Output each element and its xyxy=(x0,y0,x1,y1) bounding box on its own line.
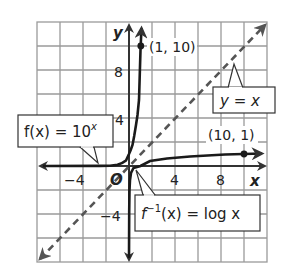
tick-x-8: 8 xyxy=(216,172,225,188)
tick-y-neg4: −4 xyxy=(100,208,121,224)
graph-figure: y x O −4 4 8 8 4 −4 (1, 10) (10, 1) y = … xyxy=(0,0,285,280)
point-label-1-10: (1, 10) xyxy=(149,39,196,55)
point-label-10-1: (10, 1) xyxy=(208,127,255,143)
callout-log-sup: −1 xyxy=(146,203,161,214)
tick-x-4: 4 xyxy=(170,172,179,188)
tick-y-8: 8 xyxy=(114,64,123,80)
callout-exp-text: f(x) = 10x xyxy=(24,121,97,141)
callout-log-rest: (x) = log x xyxy=(161,205,240,223)
callout-exp: f(x) = 10x xyxy=(18,115,113,163)
point-1-10 xyxy=(137,43,144,50)
tick-x-neg4: −4 xyxy=(64,172,85,188)
callout-exp-sup: x xyxy=(90,121,97,132)
x-axis-label: x xyxy=(249,172,261,190)
callout-identity-text: y = x xyxy=(219,92,260,110)
y-axis-label: y xyxy=(113,24,124,42)
origin-label: O xyxy=(110,171,123,189)
point-10-1 xyxy=(241,151,248,158)
tick-y-4: 4 xyxy=(115,112,124,128)
callout-exp-base: f(x) = 10 xyxy=(24,123,91,141)
